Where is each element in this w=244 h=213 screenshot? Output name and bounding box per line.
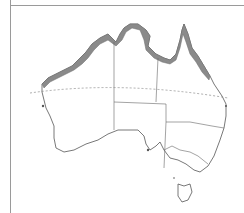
mainland-coastline [42,24,226,172]
australia-distribution-map [0,0,244,213]
tasmania-outline [178,184,192,202]
west-coast-marker [42,105,44,107]
east-coast-marker [225,105,227,107]
kangaroo-island [147,149,149,151]
bass-strait-island [173,177,175,179]
